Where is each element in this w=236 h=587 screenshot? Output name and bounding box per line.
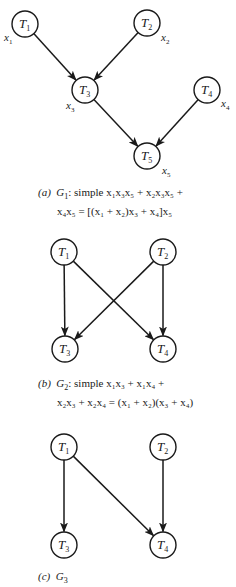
edge-a-t1-to-t3 <box>34 34 76 80</box>
node-c-t4: T4 <box>150 532 176 558</box>
caption-c-tag: (c) <box>38 570 50 582</box>
caption-b-line2: x₂x₃ + x₂x₄ = (x₁ + x₂)(x₃ + x₄) <box>38 395 193 409</box>
edge-a-t2-to-t3 <box>94 33 138 81</box>
caption-c-graph: G <box>56 570 64 582</box>
variable-label-a-x1: x1 <box>3 31 13 46</box>
node-b-t1: T1 <box>51 239 77 265</box>
node-a-t1: T1 <box>12 11 38 37</box>
variable-labels-layer: x1x2x3x4x5 <box>3 31 230 179</box>
caption-a-line2: x₄x₅ = [(x₁ + x₂)x₃ + x₄]x₅ <box>38 204 183 218</box>
node-a-t3: T3 <box>72 77 98 103</box>
caption-a-tag: (a) <box>38 186 51 198</box>
edge-b-t1-to-t3 <box>64 265 65 336</box>
caption-b-tag: (b) <box>38 377 51 389</box>
edge-a-t3-to-t5 <box>94 99 138 146</box>
node-c-t1: T1 <box>51 434 77 460</box>
edge-c-t1-to-t4 <box>73 456 153 535</box>
node-b-t2: T2 <box>150 239 176 265</box>
node-a-t2: T2 <box>134 10 160 36</box>
node-b-t3: T3 <box>52 336 78 362</box>
caption-c-graph-sub: 3 <box>64 576 68 585</box>
node-c-t3: T3 <box>51 532 77 558</box>
caption-b-text1: : simple x₁x₃ + x₁x₄ + <box>68 377 164 389</box>
caption-c: (c) G3 <box>38 569 68 587</box>
caption-a-text1: : simple x₁x₃x₅ + x₂x₃x₅ + <box>68 186 183 198</box>
caption-b-line1: (b) G2: simple x₁x₃ + x₁x₄ + <box>38 376 193 395</box>
caption-c-line1: (c) G3 <box>38 569 68 587</box>
node-c-t2: T2 <box>150 434 176 460</box>
node-a-t5: T5 <box>134 143 160 169</box>
caption-b: (b) G2: simple x₁x₃ + x₁x₄ + x₂x₃ + x₂x₄… <box>38 376 193 409</box>
variable-label-a-x2: x2 <box>160 31 170 46</box>
edges-layer <box>34 33 199 536</box>
variable-label-a-x4: x4 <box>220 97 230 112</box>
node-a-t4: T4 <box>194 77 220 103</box>
node-b-t4: T4 <box>150 336 176 362</box>
edge-a-t4-to-t5 <box>156 100 198 146</box>
nodes-layer: T1T2T3T4T5T1T2T3T4T1T2T3T4 <box>12 10 220 558</box>
caption-a: (a) G1: simple x₁x₃x₅ + x₂x₃x₅ + x₄x₅ = … <box>38 185 183 218</box>
variable-label-a-x3: x3 <box>65 99 75 114</box>
variable-label-a-x5: x5 <box>161 164 171 179</box>
caption-a-line1: (a) G1: simple x₁x₃x₅ + x₂x₃x₅ + <box>38 185 183 204</box>
